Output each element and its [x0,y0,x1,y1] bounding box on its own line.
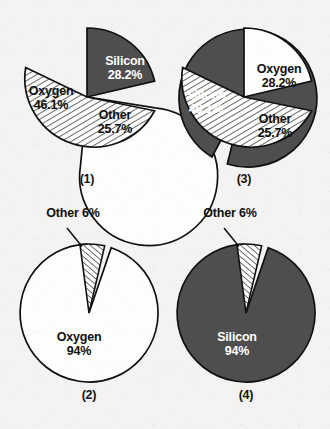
pie-panel-3-caption: (3) [214,172,274,186]
pie-3-label-silicon-name: Silicon [175,88,237,102]
pie-3-label-other-value: 25.7% [245,126,305,140]
pie-1-label-silicon-value: 28.2% [94,68,156,82]
pie-1-label-silicon-name: Silicon [94,54,156,68]
pie-3-label-oxygen: Oxygen 28.2% [245,62,313,90]
pie-3-label-silicon-value: 46.1% [175,102,237,116]
pie-1-label-other: Other 25.7% [85,108,145,136]
pie-4-label-other-value: 6% [239,206,257,220]
pie-1-label-other-name: Other [85,108,145,122]
pie-1-label-oxygen-name: Oxygen [19,84,83,98]
pie-1-label-other-value: 25.7% [85,122,145,136]
pie-panel-2: Other 6% Oxygen 94% [18,242,160,384]
pie-panel-3: Oxygen 28.2% Other 25.7% Silicon 46.1% [173,26,315,168]
pie-4-callout-leader [175,242,317,384]
pie-panel-4-caption: (4) [216,388,276,402]
pie-2-label-other-value: 6% [82,206,100,220]
pie-3-label-oxygen-name: Oxygen [245,62,313,76]
pie-3-label-silicon: Silicon 46.1% [175,88,237,116]
pie-panel-4: Other 6% Silicon 94% [175,242,317,384]
pie-3-label-oxygen-value: 28.2% [245,76,313,90]
pie-2-label-other: Other 6% [42,206,104,220]
pie-panel-2-caption: (2) [59,388,119,402]
pie-1-label-silicon: Silicon 28.2% [94,54,156,82]
pie-1-label-oxygen-value: 46.1% [19,98,83,112]
four-pie-chart-figure: Silicon 28.2% Other 25.7% Oxygen 46.1% (… [0,0,330,429]
pie-1-label-oxygen: Oxygen 46.1% [19,84,83,112]
pie-2-callout-leader [18,242,160,384]
pie-panel-1-caption: (1) [57,172,117,186]
pie-4-label-other: Other 6% [199,206,261,220]
pie-3-label-other: Other 25.7% [245,112,305,140]
pie-4-label-other-name: Other [203,206,235,220]
pie-2-label-other-name: Other [46,206,78,220]
pie-3-label-other-name: Other [245,112,305,126]
pie-panel-1: Silicon 28.2% Other 25.7% Oxygen 46.1% [16,26,158,168]
